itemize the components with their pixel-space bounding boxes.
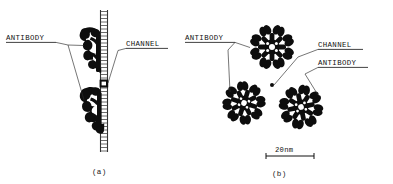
caption-panel-b: (b) [272,170,287,178]
channel-particle-a [100,80,109,88]
figure-canvas: ANTIBODY CHANNEL (a) [0,0,393,184]
scale-bar-label: 20nm [275,146,293,154]
label-antibody-a-text: ANTIBODY [6,34,44,42]
label-antibody-b-right-text: ANTIBODY [318,59,356,67]
channel-particle-b [270,83,274,87]
caption-panel-a: (a) [92,168,107,176]
label-antibody-b-left-text: ANTIBODY [185,34,223,42]
label-channel-a-text: CHANNEL [126,40,160,48]
figure-root: ANTIBODY CHANNEL (a) [0,0,393,184]
label-channel-b-text: CHANNEL [318,41,352,49]
figure-background [0,0,393,184]
